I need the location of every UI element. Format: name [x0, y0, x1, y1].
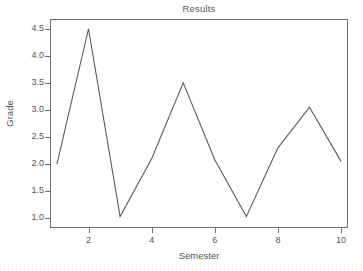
x-axis-tick-label: 8 — [263, 235, 293, 245]
y-axis-title: Grade — [4, 91, 15, 137]
y-axis-tick-mark — [45, 137, 50, 138]
y-axis-tick-label: 3.5 — [18, 77, 44, 87]
x-axis-tick-mark — [89, 228, 90, 233]
y-axis-tick-mark — [45, 110, 50, 111]
y-axis-tick-mark — [45, 218, 50, 219]
chart-title: Results — [50, 3, 348, 14]
y-axis-tick-label: 3.0 — [18, 104, 44, 114]
x-axis-title: Semester — [50, 250, 348, 261]
y-axis-tick-label: 4.5 — [18, 23, 44, 33]
scan-noise-texture — [0, 263, 363, 271]
y-axis-tick-mark — [45, 191, 50, 192]
y-axis-tick-label: 1.0 — [18, 212, 44, 222]
y-axis-tick-label: 2.0 — [18, 158, 44, 168]
y-axis-tick-mark — [45, 164, 50, 165]
x-axis-tick-mark — [341, 228, 342, 233]
x-axis-tick-mark — [152, 228, 153, 233]
y-axis-tick-mark — [45, 56, 50, 57]
y-axis-tick-label: 2.5 — [18, 131, 44, 141]
chart-figure: Results 1.01.52.02.53.03.54.04.5 246810 … — [0, 0, 363, 271]
y-axis-tick-mark — [45, 29, 50, 30]
x-axis-tick-label: 2 — [74, 235, 104, 245]
grade-series-line — [57, 29, 341, 217]
x-axis-tick-mark — [278, 228, 279, 233]
y-axis-tick-mark — [45, 83, 50, 84]
line-chart-plot — [50, 19, 348, 228]
x-axis-tick-label: 4 — [137, 235, 167, 245]
y-axis-tick-label: 4.0 — [18, 50, 44, 60]
y-axis-tick-label: 1.5 — [18, 185, 44, 195]
x-axis-tick-mark — [215, 228, 216, 233]
y-axis-tick-labels: 1.01.52.02.53.03.54.04.5 — [14, 0, 44, 271]
x-axis-tick-label: 10 — [326, 235, 356, 245]
x-axis-tick-label: 6 — [200, 235, 230, 245]
